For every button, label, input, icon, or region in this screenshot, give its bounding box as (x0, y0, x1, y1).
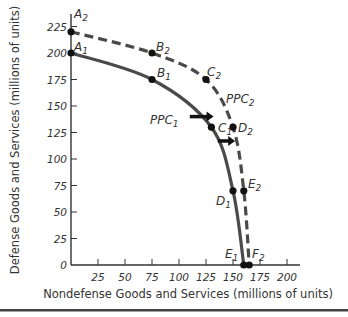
label-a1: A1 (73, 40, 88, 56)
point-b1 (148, 76, 155, 83)
y-tick-label: 25 (54, 233, 68, 245)
label-c1: C1 (218, 121, 232, 137)
y-axis-title: Defense Goods and Services (millions of … (8, 6, 22, 274)
point-e2 (240, 187, 247, 194)
bottom-rule (0, 309, 348, 312)
y-tick-label: 225 (47, 21, 67, 33)
point-d1 (229, 187, 236, 194)
arrow-head-icon (228, 136, 235, 146)
y-tick-label: 175 (47, 74, 67, 86)
y-tick-label: 200 (47, 47, 67, 59)
label-a2: A2 (73, 7, 88, 23)
label-b1: B1 (157, 66, 171, 82)
point-a2 (67, 28, 74, 35)
label-d1: D1 (216, 194, 231, 210)
y-tick-label: 0 (60, 259, 67, 271)
x-axis-title: Nondefense Goods and Services (millions … (43, 287, 333, 301)
label-e2: E2 (248, 177, 262, 193)
ppc1-label: PPC1 (150, 113, 179, 129)
label-f2: F2 (252, 247, 265, 263)
point-f2 (246, 261, 253, 268)
x-tick-label: 200 (277, 271, 297, 283)
y-tick-label: 50 (54, 206, 68, 218)
ppc1-curve (71, 53, 244, 265)
point-b2 (148, 49, 155, 56)
axes (71, 14, 300, 265)
ppc2-label: PPC2 (226, 92, 255, 108)
ppc-chart: 2550751001251501752000255075100125150175… (0, 0, 348, 317)
x-tick-label: 100 (169, 271, 189, 283)
y-tick-label: 75 (54, 180, 68, 192)
y-tick-label: 125 (47, 127, 67, 139)
x-tick-label: 175 (250, 271, 270, 283)
y-tick-label: 150 (47, 100, 67, 112)
x-tick-label: 25 (91, 271, 105, 283)
x-tick-label: 125 (196, 271, 216, 283)
label-d2: D2 (238, 121, 253, 137)
point-c1 (208, 124, 215, 131)
x-tick-label: 150 (223, 271, 243, 283)
x-tick-label: 50 (118, 271, 132, 283)
y-tick-label: 100 (47, 153, 67, 165)
x-tick-label: 75 (145, 271, 159, 283)
arrow-head-icon (207, 112, 214, 122)
label-c2: C2 (207, 65, 221, 81)
label-e1: E1 (225, 247, 238, 263)
label-b2: B2 (156, 40, 170, 56)
